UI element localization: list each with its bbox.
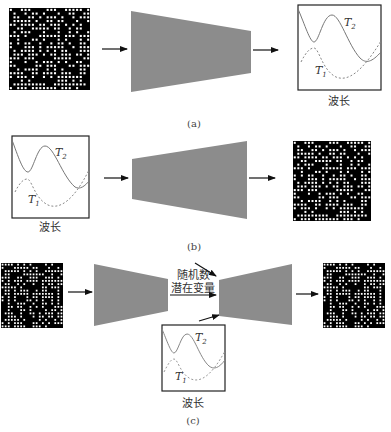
curve-t1 [15, 170, 89, 206]
chart-xlabel: 波长 [182, 397, 204, 410]
svg-text:T2: T2 [195, 331, 207, 346]
spectrum-chart: T2 T1 [162, 325, 225, 391]
decoder-trapezoid [219, 264, 292, 325]
random-number-label: 随机数 [177, 268, 210, 282]
structure-grid-input [1, 263, 63, 328]
curve-t1 [301, 41, 381, 78]
inverse-network-trapezoid [132, 141, 247, 219]
figure-canvas: T2 T1 波长 (a) T2 T1 波长 (b) 随机数 潜在变量 [0, 0, 391, 432]
panel-caption: (a) [187, 118, 201, 129]
curve-t2 [162, 329, 225, 368]
curve-t1 [164, 351, 225, 380]
spectrum-chart: T2 T1 [12, 136, 89, 218]
svg-text:T2: T2 [55, 146, 67, 161]
panel-caption: (b) [187, 241, 201, 252]
panel-caption: (c) [186, 415, 200, 426]
structure-grid-output [293, 141, 371, 221]
structure-grid-input [9, 8, 90, 90]
curve-t2 [12, 140, 89, 188]
panel-a: T2 T1 波长 (a) [9, 5, 381, 129]
curve-t2 [298, 9, 381, 61]
structure-grid-output [323, 263, 385, 328]
chart-xlabel: 波长 [39, 221, 61, 234]
svg-text:T1: T1 [28, 193, 40, 208]
svg-text:T2: T2 [344, 16, 356, 31]
svg-text:T1: T1 [175, 370, 187, 385]
forward-network-trapezoid [131, 11, 251, 92]
spectrum-chart: T2 T1 [298, 5, 381, 90]
encoder-trapezoid [94, 264, 168, 326]
chart-xlabel: 波长 [328, 95, 350, 108]
latent-variable-label: 潜在变量 [171, 281, 215, 295]
panel-c: 随机数 潜在变量 T2 T1 波长 (c) [1, 263, 385, 426]
panel-b: T2 T1 波长 (b) [12, 136, 371, 252]
arrow-icon [199, 315, 219, 321]
